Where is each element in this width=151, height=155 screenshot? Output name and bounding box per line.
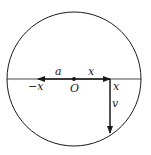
label-x-right: x — [113, 80, 120, 93]
origin-point — [72, 77, 76, 81]
label-a: a — [55, 65, 62, 78]
circle-diagram: a x −x O x v — [0, 0, 151, 155]
label-v: v — [112, 97, 119, 110]
label-neg-x: −x — [28, 80, 44, 93]
label-origin: O — [70, 82, 79, 95]
label-x-top: x — [88, 65, 95, 78]
